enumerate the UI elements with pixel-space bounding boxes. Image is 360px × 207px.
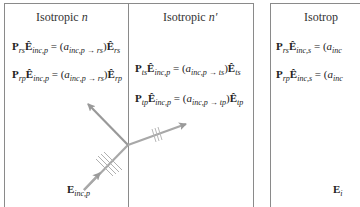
reflected-ray-arrow (88, 104, 128, 145)
right-equation-rp: PrpÊinc,s = (ainc (276, 68, 343, 80)
right-region-title: Isotrop (304, 10, 338, 25)
right-incident-label: Ei (333, 183, 343, 195)
transmitted-ray-arrow (128, 124, 186, 145)
right-equation-rs: PrsÊinc,s = (ainc (276, 40, 342, 52)
incident-ray-arrow (84, 145, 128, 190)
